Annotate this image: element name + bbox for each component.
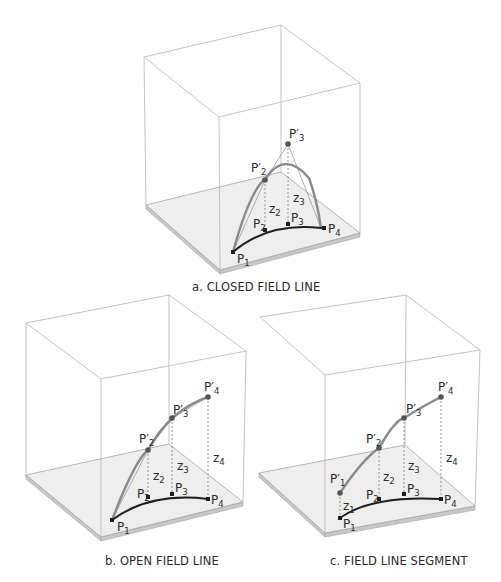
lifted-point-label: P′4 <box>438 380 453 396</box>
panel-c: P′1P′2P′3P′4P1P2P3P4z1z2z3z4c. FIELD LIN… <box>259 295 480 568</box>
ground-point-marker <box>338 516 342 520</box>
ground-point-marker <box>286 222 290 226</box>
panel-b: P′2P′3P′4P1P2P3P4z2z3z4b. OPEN FIELD LIN… <box>26 295 246 568</box>
base-plate <box>26 444 243 537</box>
height-label: z4 <box>446 451 458 467</box>
lifted-point-label: P′4 <box>204 380 219 396</box>
cube-top-face <box>144 25 360 117</box>
lifted-point-label: P′2 <box>366 432 381 448</box>
field-line-diagram-figure: P′2P′3P1P2P3P4z2z3a. CLOSED FIELD LINEP′… <box>0 0 501 582</box>
ground-point-marker <box>170 492 174 496</box>
panel-caption-c: c. FIELD LINE SEGMENT <box>330 554 468 568</box>
lifted-point-label: P′3 <box>406 402 421 418</box>
cube-vertical-edge <box>405 295 406 445</box>
cube-vertical-edge <box>243 351 246 502</box>
lifted-point-label: P′3 <box>289 127 304 143</box>
lifted-point-marker <box>205 394 211 400</box>
cube-top-face <box>260 295 480 375</box>
lifted-point-label: P′2 <box>139 432 154 448</box>
lifted-point-marker <box>438 394 444 400</box>
panel-caption-b: b. OPEN FIELD LINE <box>105 554 219 568</box>
lifted-point-marker <box>262 177 268 183</box>
lifted-point-label: P′2 <box>251 161 266 177</box>
ground-point-marker <box>402 492 406 496</box>
ground-point-marker <box>322 226 326 230</box>
ground-point-marker <box>231 250 235 254</box>
lifted-point-marker <box>285 141 291 147</box>
panel-caption-a: a. CLOSED FIELD LINE <box>192 280 320 294</box>
lifted-point-marker <box>145 447 151 453</box>
height-label: z4 <box>213 451 225 467</box>
diagram-canvas: P′2P′3P1P2P3P4z2z3a. CLOSED FIELD LINEP′… <box>0 0 501 582</box>
lifted-point-label: P′3 <box>173 403 188 419</box>
cube-vertical-edge <box>144 57 146 205</box>
ground-point-marker <box>206 497 210 501</box>
lifted-point-marker <box>337 490 343 496</box>
panel-a: P′2P′3P1P2P3P4z2z3a. CLOSED FIELD LINE <box>144 25 360 294</box>
lifted-point-marker <box>401 415 407 421</box>
cube-top-face <box>26 295 246 379</box>
cube-vertical-edge <box>475 350 480 506</box>
ground-point-marker <box>110 518 114 522</box>
ground-point-marker <box>439 497 443 501</box>
